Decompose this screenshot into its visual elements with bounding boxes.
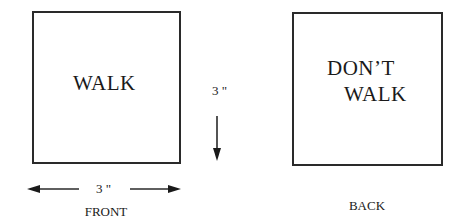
front-sign-panel: WALK <box>32 11 181 164</box>
height-dimension-label: 3 " <box>212 84 227 97</box>
back-walk-text: WALK <box>344 84 407 105</box>
front-walk-text: WALK <box>73 73 136 94</box>
back-caption: BACK <box>349 199 385 212</box>
back-dont-text: DON’T <box>327 58 395 79</box>
front-caption: FRONT <box>85 205 128 218</box>
back-sign-panel: DON’T WALK <box>292 12 443 166</box>
left-arrow-icon <box>27 185 79 193</box>
down-arrow-icon <box>213 116 221 161</box>
width-dimension-label: 3 " <box>96 182 111 195</box>
right-arrow-icon <box>130 185 181 193</box>
